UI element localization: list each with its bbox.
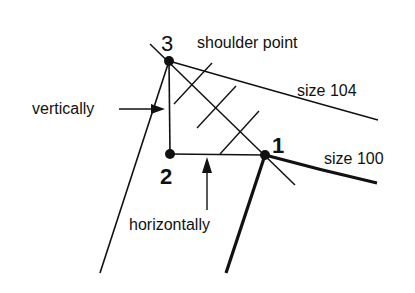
point-2-marker	[165, 149, 175, 159]
shoulder-grading-diagram: 3 2 1 shoulder point size 104 size 100 v…	[0, 0, 415, 293]
vertically-arrow-head	[151, 104, 165, 114]
horizontally-arrow-head	[202, 157, 212, 173]
point-3-label: 3	[161, 31, 173, 56]
shoulder-point-label: shoulder point	[197, 34, 298, 51]
point-2-label: 2	[160, 164, 172, 189]
horizontal-offset-line	[170, 154, 265, 155]
size-104-label: size 104	[297, 82, 357, 99]
armhole-line-size100	[226, 155, 265, 273]
vertical-offset-line	[169, 61, 170, 154]
horizontally-label: horizontally	[129, 216, 210, 233]
point-1-label: 1	[272, 133, 284, 158]
size-100-label: size 100	[324, 150, 384, 167]
vertically-label: vertically	[32, 100, 94, 117]
point-3-marker	[164, 56, 174, 66]
point-1-marker	[260, 150, 270, 160]
armhole-line-size104	[100, 61, 169, 273]
